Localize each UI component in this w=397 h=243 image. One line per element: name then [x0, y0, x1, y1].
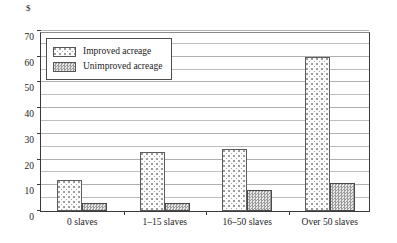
x-axis-tick	[289, 211, 290, 215]
legend-label: Improved acreage	[83, 47, 151, 57]
y-axis-tick	[37, 30, 41, 31]
x-axis-tick	[206, 211, 207, 215]
bar-improved	[140, 152, 165, 211]
legend-swatch-unimproved	[53, 62, 76, 72]
bar-unimproved	[330, 183, 355, 211]
legend-item: Unimproved acreage	[53, 59, 162, 74]
legend-swatch-improved	[53, 47, 76, 57]
x-axis-label: Over 50 slaves	[302, 218, 358, 228]
bar-chart: $ 010203040506070 0 slaves1–15 slaves16–…	[0, 0, 397, 243]
x-axis-label: 0 slaves	[67, 218, 97, 228]
bar-improved	[222, 149, 247, 211]
x-axis-label: 1–15 slaves	[142, 218, 187, 228]
legend-item: Improved acreage	[53, 44, 162, 59]
bar-unimproved	[82, 203, 107, 211]
legend-label: Unimproved acreage	[83, 62, 162, 72]
gridline	[41, 30, 369, 31]
x-axis-label: 16–50 slaves	[223, 218, 272, 228]
chart-legend: Improved acreageUnimproved acreage	[46, 38, 172, 80]
bar-improved	[57, 180, 82, 211]
bar-improved	[305, 57, 330, 211]
y-axis-unit-label: $	[26, 3, 31, 13]
x-axis-tick	[124, 211, 125, 215]
bar-unimproved	[165, 203, 190, 211]
bar-unimproved	[247, 190, 272, 211]
